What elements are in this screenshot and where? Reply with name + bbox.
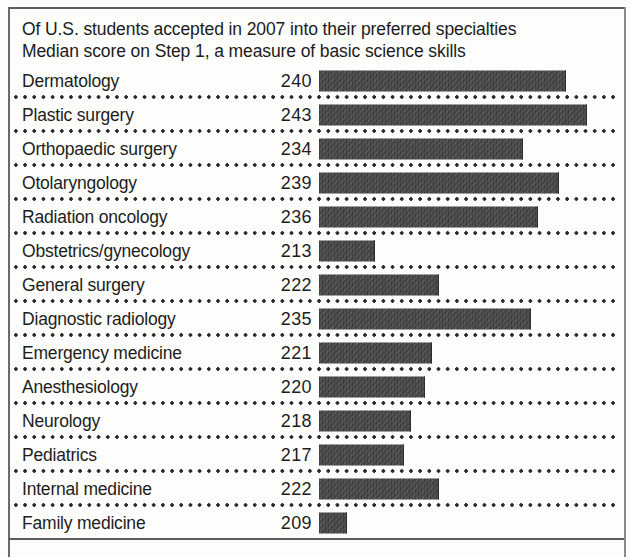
- value-bar: [319, 173, 559, 194]
- bar-track: [319, 336, 620, 370]
- value-bar: [319, 445, 404, 466]
- bar-track: [319, 132, 620, 166]
- score-value: 240: [200, 71, 312, 92]
- bar-row: General surgery222: [0, 268, 630, 302]
- headline-line-2: Median score on Step 1, a measure of bas…: [22, 40, 612, 62]
- score-value: 234: [200, 139, 312, 160]
- specialty-label: Diagnostic radiology: [22, 309, 176, 330]
- frame-top-rule: [8, 7, 624, 9]
- bar-row: Anesthesiology220: [0, 370, 630, 404]
- bar-track: [319, 438, 620, 472]
- specialty-label: Internal medicine: [22, 479, 152, 500]
- bar-track: [319, 64, 620, 98]
- score-value: 235: [200, 309, 312, 330]
- bar-row: Radiation oncology236: [0, 200, 630, 234]
- score-value: 209: [200, 513, 312, 534]
- specialty-label: Emergency medicine: [22, 343, 182, 364]
- bar-row: Pediatrics217: [0, 438, 630, 472]
- bar-row: Obstetrics/gynecology213: [0, 234, 630, 268]
- score-value: 222: [200, 479, 312, 500]
- bar-row: Neurology218: [0, 404, 630, 438]
- specialty-label: Orthopaedic surgery: [22, 139, 177, 160]
- bar-track: [319, 370, 620, 404]
- score-value: 243: [200, 105, 312, 126]
- headline-line-1: Of U.S. students accepted in 2007 into t…: [22, 18, 612, 40]
- bar-track: [319, 404, 620, 438]
- bar-track: [319, 166, 620, 200]
- bar-row: Plastic surgery243: [0, 98, 630, 132]
- score-value: 221: [200, 343, 312, 364]
- value-bar: [319, 241, 375, 262]
- bar-row: Dermatology240: [0, 64, 630, 98]
- specialty-label: Obstetrics/gynecology: [22, 241, 190, 262]
- value-bar: [319, 309, 531, 330]
- bar-row: Orthopaedic surgery234: [0, 132, 630, 166]
- score-value: 213: [200, 241, 312, 262]
- bar-row: Family medicine209: [0, 506, 630, 540]
- specialty-label: Neurology: [22, 411, 100, 432]
- bar-track: [319, 98, 620, 132]
- bar-track: [319, 506, 620, 540]
- score-value: 222: [200, 275, 312, 296]
- value-bar: [319, 105, 587, 126]
- score-value: 239: [200, 173, 312, 194]
- specialty-label: Family medicine: [22, 513, 145, 534]
- bar-rows-container: Dermatology240Plastic surgery243Orthopae…: [0, 64, 630, 540]
- value-bar: [319, 71, 566, 92]
- bar-row: Otolaryngology239: [0, 166, 630, 200]
- score-value: 220: [200, 377, 312, 398]
- score-value: 218: [200, 411, 312, 432]
- value-bar: [319, 139, 523, 160]
- specialty-label: Pediatrics: [22, 445, 97, 466]
- bar-track: [319, 234, 620, 268]
- bar-row: Internal medicine222: [0, 472, 630, 506]
- specialty-label: Otolaryngology: [22, 173, 137, 194]
- bar-track: [319, 302, 620, 336]
- bar-row: Emergency medicine221: [0, 336, 630, 370]
- specialty-label: Dermatology: [22, 71, 119, 92]
- specialty-label: Plastic surgery: [22, 105, 134, 126]
- specialty-label: Radiation oncology: [22, 207, 167, 228]
- value-bar: [319, 343, 432, 364]
- value-bar: [319, 411, 411, 432]
- chart-headline: Of U.S. students accepted in 2007 into t…: [22, 18, 612, 62]
- value-bar: [319, 207, 538, 228]
- specialty-label: General surgery: [22, 275, 144, 296]
- bar-row: Diagnostic radiology235: [0, 302, 630, 336]
- chart-figure: Of U.S. students accepted in 2007 into t…: [0, 0, 630, 557]
- bar-track: [319, 200, 620, 234]
- value-bar: [319, 275, 439, 296]
- score-value: 236: [200, 207, 312, 228]
- bar-track: [319, 472, 620, 506]
- specialty-label: Anesthesiology: [22, 377, 138, 398]
- score-value: 217: [200, 445, 312, 466]
- value-bar: [319, 479, 439, 500]
- value-bar: [319, 377, 425, 398]
- value-bar: [319, 513, 347, 534]
- bar-track: [319, 268, 620, 302]
